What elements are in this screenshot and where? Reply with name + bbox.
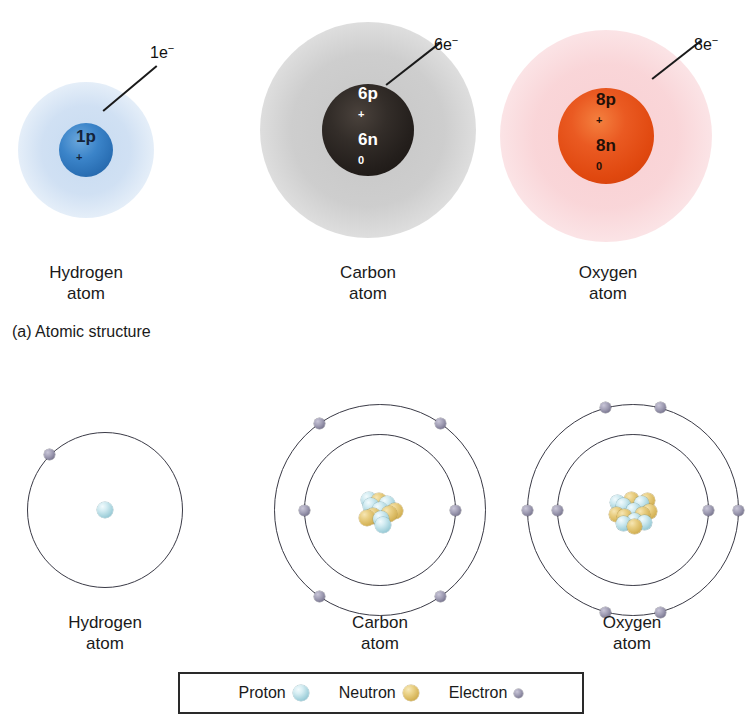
nucleus-neutrons-carbon: 6n0 — [358, 130, 378, 176]
cloud-atom-hydrogen: 1p+ — [18, 82, 154, 218]
cloud-atom-carbon: 6p+ 6n0 — [260, 22, 476, 238]
nucleus-protons-carbon: 6p+ — [358, 84, 378, 130]
nucleus-proton — [375, 517, 391, 533]
atom-label-carbon-top: Carbon atom — [288, 262, 448, 304]
atom-label-hydrogen-bottom: Hydrogen atom — [25, 612, 185, 654]
electron — [733, 505, 744, 516]
panel-a-caption: (a) Atomic structure — [12, 323, 151, 341]
atom-label-oxygen-bottom: Oxygen atom — [552, 612, 712, 654]
nucleus-protons-hydrogen: 1p+ — [76, 127, 96, 173]
proton-icon — [293, 685, 309, 701]
bohr-model-hydrogen — [20, 425, 190, 595]
nucleus-protons-oxygen: 8p+ — [596, 90, 616, 136]
legend-item-proton: Proton — [239, 684, 309, 702]
nucleus-hydrogen: 1p+ — [59, 123, 113, 177]
legend-item-neutron: Neutron — [339, 684, 419, 702]
electron — [314, 591, 325, 602]
legend-label-neutron: Neutron — [339, 684, 396, 702]
electron-count-label-carbon: 6e− — [434, 34, 458, 54]
nucleus-carbon: 6p+ 6n0 — [322, 84, 414, 176]
legend-item-electron: Electron — [449, 684, 524, 702]
electron — [435, 418, 446, 429]
bohr-model-oxygen — [518, 395, 748, 625]
bohr-model-carbon — [265, 395, 495, 625]
atom-label-oxygen-top: Oxygen atom — [528, 262, 688, 304]
legend-label-proton: Proton — [239, 684, 286, 702]
atom-label-hydrogen-top: Hydrogen atom — [6, 262, 166, 304]
electron-count-label-oxygen: 8e− — [694, 34, 718, 54]
nucleus-neutrons-oxygen: 8n0 — [596, 136, 616, 182]
neutron-icon — [403, 685, 419, 701]
electron-icon — [514, 689, 523, 698]
electron — [435, 591, 446, 602]
electron — [314, 418, 325, 429]
legend-box: Proton Neutron Electron — [178, 672, 584, 714]
legend-label-electron: Electron — [449, 684, 508, 702]
atom-label-carbon-bottom: Carbon atom — [300, 612, 460, 654]
atomic-structure-figure: 1p+ 1e− Hydrogen atom 6p+ 6n0 6e− Carbon… — [0, 0, 752, 725]
electron-count-label-hydrogen: 1e− — [150, 42, 174, 62]
electron — [522, 505, 533, 516]
nucleus-oxygen: 8p+ 8n0 — [558, 88, 654, 184]
nucleus-proton — [97, 502, 113, 518]
cloud-atom-oxygen: 8p+ 8n0 — [500, 30, 712, 242]
